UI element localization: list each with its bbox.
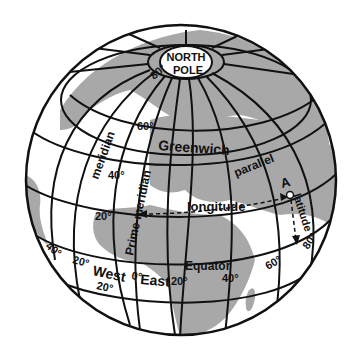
lat-tick-20: 20° [95,210,112,222]
lon-tick-e20: 20° [171,275,188,287]
point-a-marker [287,192,294,199]
lon-tick-e40: 40° [222,272,239,284]
north-pole-label-2: POLE [173,64,203,76]
lat-tick-60: 60° [137,120,154,132]
equator-label: Equator [185,259,231,273]
east-label: East [140,271,171,290]
north-pole-label-1: NORTH [166,51,205,63]
lat-tick-40: 40° [108,169,125,181]
globe-diagram: NORTH POLE 80° 60° 40° 20° 20° Greenwich… [0,0,361,353]
